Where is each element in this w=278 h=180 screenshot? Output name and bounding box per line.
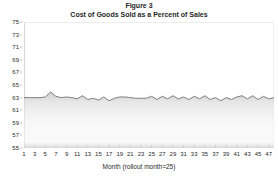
chart-title-block: Figure 3 Cost of Goods Sold as a Percent…: [0, 1, 278, 19]
series-area-fill: [24, 92, 274, 148]
x-axis-tick-label: 39: [223, 150, 230, 158]
x-axis-tick-label: 7: [54, 150, 57, 158]
x-axis-tick-label: 31: [180, 150, 187, 158]
y-axis-tick-label: 67: [12, 69, 19, 75]
x-axis-tick-label: 5: [44, 150, 47, 158]
y-axis-tick-label: 55: [12, 145, 19, 151]
x-axis-tick-label: 29: [170, 150, 177, 158]
y-axis-tickmark: [20, 59, 22, 60]
x-axis-tick-label: 23: [138, 150, 145, 158]
y-axis-tickmark: [20, 97, 22, 98]
y-axis-tick-label: 59: [12, 120, 19, 126]
x-axis-labels: 1357911131517192123252729313335373941434…: [24, 150, 274, 160]
y-axis-tickmark: [20, 72, 22, 73]
y-axis-tick-label: 71: [12, 44, 19, 50]
y-axis-tick-label: 73: [12, 32, 19, 38]
y-axis-tickmark: [20, 34, 22, 35]
y-axis-tickmark: [20, 110, 22, 111]
x-axis-tick-label: 11: [74, 150, 80, 158]
x-axis-tick-label: 17: [106, 150, 113, 158]
x-axis-tick-label: 27: [159, 150, 166, 158]
y-axis-labels: 7573716967656361595755: [0, 22, 22, 148]
x-axis-tick-label: 19: [116, 150, 123, 158]
x-axis-tick-label: 3: [33, 150, 36, 158]
y-axis-tick-label: 75: [12, 19, 19, 25]
y-axis-tick-label: 63: [12, 95, 19, 101]
x-axis-tick-label: 25: [148, 150, 155, 158]
x-axis-tick-label: 45: [255, 150, 262, 158]
y-axis-tick-label: 69: [12, 57, 19, 63]
x-axis-tick-label: 15: [95, 150, 102, 158]
chart-line-svg: [24, 22, 274, 148]
y-axis-tickmark: [20, 122, 22, 123]
y-axis-tickmark: [20, 135, 22, 136]
x-axis-tick-label: 21: [127, 150, 134, 158]
figure-number: Figure 3: [0, 1, 278, 10]
x-axis-tick-label: 41: [233, 150, 240, 158]
x-axis-tick-label: 37: [212, 150, 219, 158]
x-axis-tick-label: 35: [202, 150, 209, 158]
y-axis-tick-label: 57: [12, 132, 19, 138]
y-axis-tickmark: [20, 47, 22, 48]
y-axis-tick-label: 65: [12, 82, 19, 88]
chart-subtitle: Cost of Goods Sold as a Percent of Sales: [0, 10, 278, 19]
y-axis-tick-label: 61: [12, 107, 19, 113]
x-axis-tick-label: 33: [191, 150, 198, 158]
x-axis-tick-label: 43: [244, 150, 251, 158]
x-axis-tick-label: 9: [65, 150, 68, 158]
x-axis-tick-label: 47: [265, 150, 272, 158]
x-axis-tick-label: 13: [84, 150, 91, 158]
y-axis-tickmark: [20, 22, 22, 23]
x-axis-tick-label: 1: [22, 150, 25, 158]
y-axis-tickmark: [20, 85, 22, 86]
plot-area: [24, 22, 274, 148]
x-axis-title: Month (rollout month=25): [0, 162, 278, 171]
figure-container: Figure 3 Cost of Goods Sold as a Percent…: [0, 0, 278, 180]
y-axis-tickmark: [20, 148, 22, 149]
